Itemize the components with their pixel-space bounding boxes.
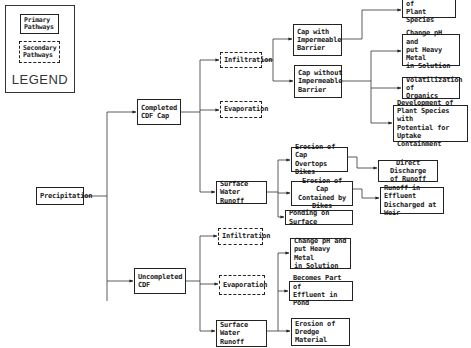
node-uncap-infiltration: Infiltration bbox=[218, 228, 263, 245]
node-uncap-surface-water-runoff: Surface Water Runoff bbox=[216, 320, 267, 347]
node-cap-surface-water-runoff: Surface Water Runoff bbox=[216, 181, 267, 204]
node-precipitation: Precipitation bbox=[36, 187, 84, 205]
node-uncap-evaporation: Evaporation bbox=[219, 275, 265, 295]
node-cap-with-impermeable-barrier: Cap with Impermeable Barrier bbox=[293, 24, 342, 56]
node-runoff-in-effluent: Runoff in Effluent Discharged at Weir bbox=[380, 187, 444, 214]
legend: Primary Pathways Secondary Pathways LEGE… bbox=[5, 5, 75, 93]
legend-primary-pathways: Primary Pathways bbox=[20, 14, 59, 34]
legend-title: LEGEND bbox=[6, 72, 74, 87]
node-erosion-of-dredge-material: Erosion of Dredge Material bbox=[291, 318, 350, 346]
node-becomes-part-of-effluent: Becomes Part of Effluent in Pond bbox=[289, 281, 353, 301]
node-volatilization-of-organics: Volatilization of Organics bbox=[402, 77, 460, 99]
node-cap-without-impermeable-barrier: Cap without Impermeable Barrier bbox=[294, 65, 342, 98]
node-direct-discharge-of-runoff: Direct Discharge of Runoff bbox=[378, 160, 438, 182]
legend-secondary-pathways: Secondary Pathways bbox=[19, 41, 60, 63]
node-change-ph-bottom: Change pH and put Heavy Metal in Solutio… bbox=[290, 238, 351, 269]
node-uncompleted-cdf: Uncompleted CDF bbox=[134, 268, 186, 294]
node-erosion-overtops-dikes: Erosion of Cap Overtops Dikes bbox=[291, 147, 348, 172]
pathway-diagram: Primary Pathways Secondary Pathways LEGE… bbox=[0, 0, 471, 348]
node-change-ph-top: Change pH and put Heavy Metal in Solutio… bbox=[402, 34, 460, 66]
node-development-of-plant-species: Development of Plant Species bbox=[402, 0, 456, 18]
node-erosion-contained-by-dikes: Erosion of Cap Contained by Dikes bbox=[291, 181, 353, 206]
node-plant-uptake-containment: Development of Plant Species with Potent… bbox=[393, 105, 468, 142]
node-cap-infiltration: Infiltration bbox=[220, 52, 262, 68]
node-ponding-on-surface: Ponding on Surface bbox=[285, 210, 353, 225]
node-cap-evaporation: Evaporation bbox=[220, 101, 262, 118]
node-completed-cdf-cap: Completed CDF Cap bbox=[137, 99, 181, 125]
